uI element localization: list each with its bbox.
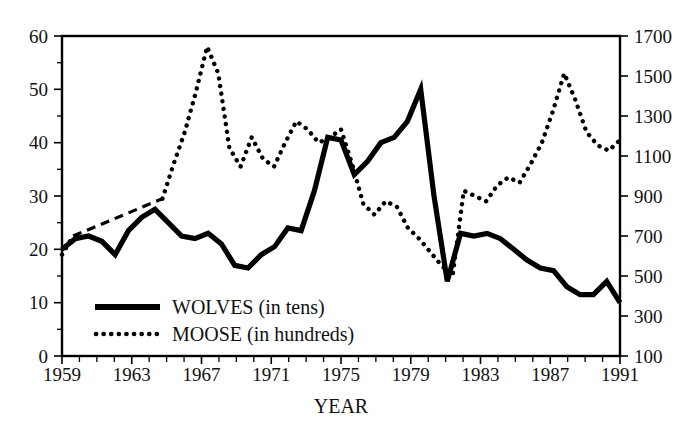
left-tick-10: 10 xyxy=(29,292,48,313)
chart-svg: 0 10 20 30 40 50 60 100 300 500 700 900 … xyxy=(0,0,692,447)
left-tick-40: 40 xyxy=(29,132,48,153)
left-tick-30: 30 xyxy=(29,186,48,207)
right-tick-300: 300 xyxy=(634,306,663,327)
right-tick-900: 900 xyxy=(634,186,663,207)
x-tick-1983: 1983 xyxy=(462,364,500,385)
right-tick-1100: 1100 xyxy=(634,146,671,167)
x-tick-1975: 1975 xyxy=(322,364,360,385)
x-tick-1963: 1963 xyxy=(113,364,151,385)
x-tick-1959: 1959 xyxy=(43,364,81,385)
population-chart: 0 10 20 30 40 50 60 100 300 500 700 900 … xyxy=(0,0,692,447)
left-tick-50: 50 xyxy=(29,79,48,100)
x-axis-labels: 1959 1963 1967 1971 1975 1979 1983 1987 … xyxy=(43,364,639,385)
right-axis: 100 300 500 700 900 1100 1300 1500 1700 xyxy=(620,26,672,367)
legend-label-moose: MOOSE (in hundreds) xyxy=(172,323,354,346)
moose-interpolated-segment xyxy=(73,199,162,236)
right-tick-1500: 1500 xyxy=(634,66,672,87)
x-tick-1991: 1991 xyxy=(601,364,639,385)
left-tick-60: 60 xyxy=(29,26,48,47)
left-tick-20: 20 xyxy=(29,239,48,260)
x-axis-ticks xyxy=(62,356,620,364)
x-axis-title: YEAR xyxy=(314,395,369,417)
right-tick-1700: 1700 xyxy=(634,26,672,47)
x-tick-1987: 1987 xyxy=(531,364,569,385)
wolves-series-line xyxy=(62,89,620,302)
legend: WOLVES (in tens) MOOSE (in hundreds) xyxy=(95,296,354,346)
right-tick-700: 700 xyxy=(634,226,663,247)
x-tick-1979: 1979 xyxy=(392,364,430,385)
right-tick-1300: 1300 xyxy=(634,106,672,127)
x-tick-1971: 1971 xyxy=(252,364,290,385)
moose-series-line xyxy=(62,47,620,276)
x-tick-1967: 1967 xyxy=(183,364,221,385)
legend-label-wolves: WOLVES (in tens) xyxy=(172,296,325,319)
left-axis: 0 10 20 30 40 50 60 xyxy=(29,26,62,367)
right-tick-500: 500 xyxy=(634,266,663,287)
